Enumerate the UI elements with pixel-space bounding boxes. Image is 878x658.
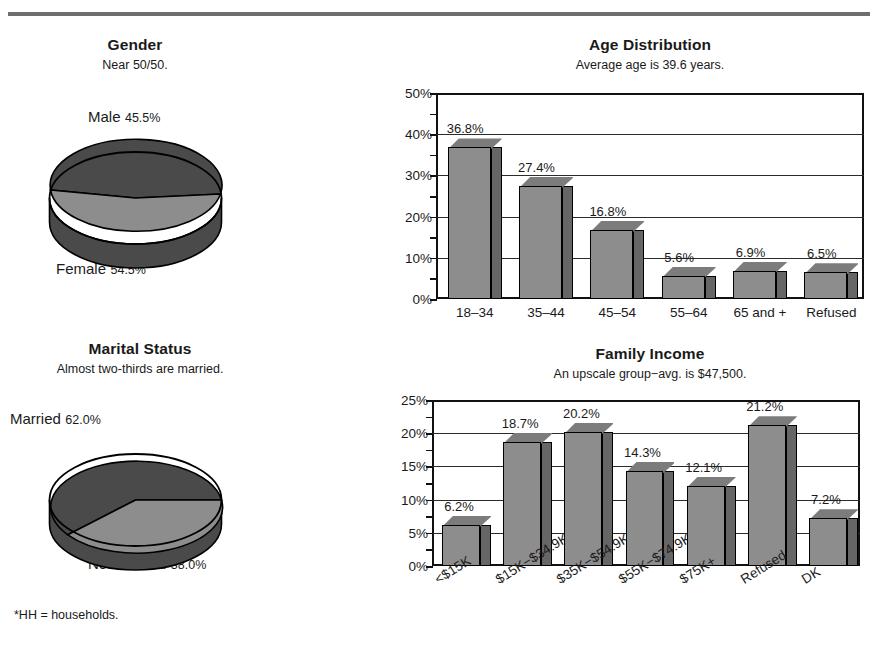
y-axis-tick	[430, 93, 437, 95]
y-axis-tick	[426, 566, 433, 568]
y-axis-tick	[426, 516, 433, 518]
y-axis-tick	[430, 299, 437, 301]
bar-side-face	[480, 525, 491, 566]
bar	[809, 509, 858, 566]
y-axis-label: 20%	[392, 209, 432, 224]
y-axis-tick	[430, 278, 437, 280]
marital-subtitle: Almost two-thirds are married.	[0, 362, 280, 376]
y-axis-label: 10%	[392, 250, 432, 265]
bar-side-face	[725, 486, 736, 566]
y-axis-tick	[430, 175, 437, 177]
header-rule	[8, 12, 870, 16]
y-axis-tick	[430, 134, 437, 136]
bar	[519, 177, 573, 299]
y-axis-tick	[430, 237, 437, 239]
y-axis-label: 30%	[392, 168, 432, 183]
bar-value-label: 6.5%	[807, 246, 837, 261]
bar-side-face	[847, 518, 858, 566]
family-income-chart: Family Income An upscale group−avg. is $…	[430, 345, 870, 645]
x-axis-label: 45–54	[599, 305, 637, 320]
bar-front-face	[804, 272, 847, 299]
bar-side-face	[786, 425, 797, 566]
gender-slice-male	[50, 139, 222, 198]
x-axis-label: 55–64	[670, 305, 708, 320]
bar-value-label: 21.2%	[746, 399, 783, 414]
bar-front-face	[687, 486, 725, 566]
y-axis-tick	[426, 500, 433, 502]
x-axis-label: 18–34	[456, 305, 494, 320]
y-axis-label: 50%	[392, 86, 432, 101]
x-axis-label: DK	[799, 564, 823, 587]
bar-front-face	[748, 425, 786, 566]
income-chart-title: Family Income	[430, 345, 870, 363]
gender-male-name: Male	[88, 108, 121, 125]
gender-slice-label-male: Male 45.5%	[88, 108, 160, 126]
footnote: *HH = households.	[14, 608, 119, 622]
y-axis-tick	[426, 533, 433, 535]
age-chart-title: Age Distribution	[430, 36, 870, 54]
y-axis-tick	[426, 433, 433, 435]
y-axis-label: 40%	[392, 127, 432, 142]
bar	[687, 477, 736, 566]
bar-front-face	[590, 230, 633, 299]
age-chart-subtitle: Average age is 39.6 years.	[430, 58, 870, 72]
bar-side-face	[847, 272, 858, 299]
x-axis-label: 35–44	[527, 305, 565, 320]
infographic-page: Gender Near 50/50. Male 45.5% Female 54.…	[0, 0, 878, 658]
marital-married-name: Married	[10, 410, 61, 427]
y-axis-label: 25%	[388, 393, 428, 408]
y-axis-label: 10%	[388, 492, 428, 507]
marital-married-value: 62.0%	[65, 413, 100, 427]
marital-pie-chart	[48, 442, 223, 567]
y-axis-tick	[426, 483, 433, 485]
bar-value-label: 7.2%	[811, 492, 841, 507]
bar-front-face	[809, 518, 847, 566]
y-axis-label: 0%	[388, 559, 428, 574]
x-axis-label: 65 and +	[734, 305, 787, 320]
age-distribution-chart: Age Distribution Average age is 39.6 yea…	[430, 36, 870, 326]
bar-value-label: 6.2%	[444, 499, 474, 514]
gender-pie-svg	[48, 136, 223, 261]
gender-panel: Gender Near 50/50. Male 45.5% Female 54.…	[0, 36, 300, 316]
bar	[733, 262, 787, 299]
x-axis-label: Refused	[806, 305, 856, 320]
y-axis-tick	[426, 466, 433, 468]
bar	[662, 267, 716, 299]
y-axis-tick	[426, 417, 433, 419]
y-axis-label: 15%	[388, 459, 428, 474]
bar-value-label: 12.1%	[685, 460, 722, 475]
bar-value-label: 27.4%	[518, 160, 555, 175]
bar-value-label: 6.9%	[736, 245, 766, 260]
bar-front-face	[519, 186, 562, 299]
bar-value-label: 16.8%	[589, 204, 626, 219]
income-chart-subtitle: An upscale group−avg. is $47,500.	[430, 367, 870, 381]
y-axis-label: 0%	[392, 292, 432, 307]
y-axis-tick	[426, 450, 433, 452]
bar	[748, 416, 797, 566]
bar-front-face	[733, 271, 776, 299]
bar-side-face	[491, 147, 502, 299]
bar-side-face	[562, 186, 573, 299]
y-axis-tick	[426, 549, 433, 551]
marital-slice-label-married: Married 62.0%	[10, 410, 101, 428]
gender-title: Gender	[0, 36, 270, 54]
bar-value-label: 36.8%	[447, 121, 484, 136]
y-axis-tick	[430, 155, 437, 157]
marital-title: Marital Status	[0, 340, 280, 358]
gender-pie-chart	[48, 136, 223, 261]
y-axis-tick	[430, 217, 437, 219]
bar-value-label: 14.3%	[624, 445, 661, 460]
bar	[590, 221, 644, 299]
bar-value-label: 18.7%	[502, 416, 539, 431]
bar-front-face	[662, 276, 705, 299]
y-axis-tick	[430, 114, 437, 116]
y-axis-tick	[430, 196, 437, 198]
bar-side-face	[705, 276, 716, 299]
marital-pie-svg	[48, 442, 223, 567]
bar-value-label: 5.6%	[664, 250, 694, 265]
y-axis-tick	[426, 400, 433, 402]
bar-side-face	[776, 271, 787, 299]
gridline	[436, 134, 864, 135]
marital-panel: Marital Status Almost two-thirds are mar…	[0, 340, 300, 640]
bar	[804, 263, 858, 299]
